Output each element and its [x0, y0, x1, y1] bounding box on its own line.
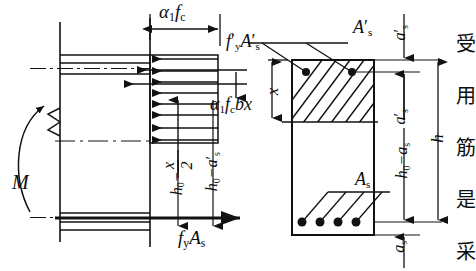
label-h0-minus-as-prime: h0−a′s: [204, 138, 221, 206]
side-text-char-4: 采: [456, 242, 476, 262]
side-text-char-3: 是: [456, 190, 476, 210]
label-h0-minus-x-over-2: h0− x 2: [161, 145, 196, 209]
label-alpha1-fc-text: α1fc: [159, 1, 185, 22]
label-As-prime: A′s: [353, 18, 372, 38]
stress-block-rect: [150, 55, 218, 143]
label-moment-M: M: [12, 172, 29, 192]
break-zigzag-symbol: [48, 108, 60, 136]
label-h0-minus-as: h0−as: [394, 128, 411, 194]
bottom-rebar-dots: [298, 218, 361, 227]
compression-stress-arrows: [152, 59, 218, 140]
side-text-char-2: 筋: [456, 138, 476, 158]
cross-section-outline: [292, 60, 374, 235]
label-as-prime-top: a′s: [392, 11, 409, 55]
label-fy-As: fyAs: [178, 228, 205, 250]
label-h-total: h: [429, 122, 446, 156]
side-text-char-1: 用: [456, 86, 476, 106]
bottom-rebar-leaders: [302, 192, 390, 222]
label-alpha1-fc-bx: α1fcbx: [210, 95, 252, 115]
label-fy-prime-As-prime: f′yA′s: [226, 32, 260, 52]
top-rebar-leaders: [248, 43, 352, 72]
side-text-char-0: 受: [456, 34, 476, 54]
label-As: As: [355, 170, 370, 190]
rebar-centre-lines: [30, 69, 150, 218]
label-x-depth: x: [264, 78, 281, 106]
label-as-bottom: as: [391, 227, 408, 267]
label-alpha1-fc: α1fc: [159, 2, 185, 24]
moment-arrow: [18, 106, 44, 212]
